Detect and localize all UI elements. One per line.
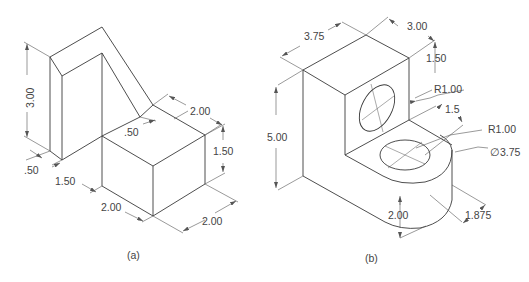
dim-b-boss-diameter: ∅3.75 (490, 146, 521, 158)
dim-b-hole-vertical-radius: R1.00 (434, 83, 462, 95)
dim-b-width: 3.75 (304, 30, 325, 42)
dim-a-slot-offset: .50 (124, 126, 139, 138)
dim-b-height: 5.00 (267, 131, 288, 143)
dim-b-boss-height: 2.00 (388, 209, 409, 221)
figure-a-part (50, 27, 205, 216)
dim-a-block-depth: 2.00 (202, 215, 223, 227)
dim-b-hole-horizontal-offset: 1.5 (445, 103, 460, 115)
dim-a-block-width: 2.00 (101, 201, 122, 213)
dim-b-hole-vertical-offset: 1.50 (426, 52, 447, 64)
caption-b: (b) (365, 252, 378, 264)
dim-a-top-width: 2.00 (190, 105, 211, 117)
isometric-drawings: 3.00 .50 1.50 2.00 2.00 1.50 2.00 .50 (a… (0, 0, 529, 282)
dim-a-thickness: .50 (24, 164, 39, 176)
dim-b-boss-offset: 1.875 (465, 209, 491, 221)
dim-b-hole-horizontal-radius: R1.00 (488, 123, 516, 135)
dim-a-base-depth: 1.50 (55, 175, 76, 187)
figure-a-labels: 3.00 .50 1.50 2.00 2.00 1.50 2.00 .50 (a… (24, 87, 234, 261)
figure-b-part (303, 35, 452, 228)
dim-a-height-upright: 3.00 (24, 87, 36, 108)
dim-b-depth: 3.00 (407, 20, 428, 32)
dim-a-block-height: 1.50 (213, 145, 234, 157)
caption-a: (a) (127, 249, 140, 261)
